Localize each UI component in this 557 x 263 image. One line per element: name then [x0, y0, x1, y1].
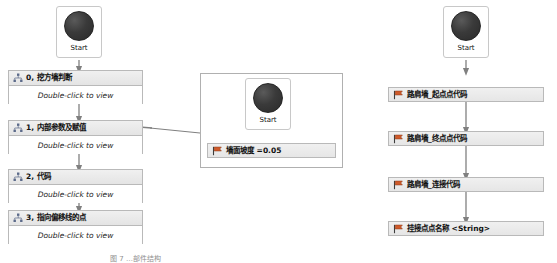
right-node-0-title: 路肩墙_起点点代码	[407, 90, 467, 100]
hierarchy-icon	[13, 213, 23, 223]
start-ball-icon	[64, 11, 94, 41]
start-ball-icon	[253, 83, 283, 113]
process-node-0-header: 0, 挖方墙判断	[9, 71, 142, 86]
process-node-1-title: 1, 内部参数及赋值	[26, 123, 86, 133]
start-node-right[interactable]: Start	[443, 6, 489, 58]
param-node-wall-slope[interactable]: 墙面坡度 =0.05	[207, 143, 336, 158]
process-node-2-body: Double-click to view	[9, 185, 142, 203]
start-ball-icon	[451, 11, 481, 41]
process-node-0-body: Double-click to view	[9, 86, 142, 104]
param-node-wall-slope-title: 墙面坡度 =0.05	[226, 146, 281, 156]
process-node-2[interactable]: 2, 代码 Double-click to view	[8, 169, 143, 203]
start-node-middle[interactable]: Start	[245, 78, 291, 130]
right-node-2-title: 路肩墙_连接代码	[407, 180, 460, 190]
process-node-0-title: 0, 挖方墙判断	[26, 73, 72, 83]
process-node-1[interactable]: 1, 内部参数及赋值 Double-click to view	[8, 120, 143, 154]
right-node-0[interactable]: 路肩墙_起点点代码	[388, 87, 544, 102]
process-node-3-hint: Double-click to view	[38, 231, 114, 240]
right-node-3-title: 挂接点点名称 <String>	[407, 224, 490, 234]
process-node-2-title: 2, 代码	[26, 172, 51, 182]
flag-icon	[393, 90, 404, 100]
process-node-2-header: 2, 代码	[9, 170, 142, 185]
flag-icon	[393, 180, 404, 190]
process-node-2-hint: Double-click to view	[38, 190, 114, 199]
start-node-left[interactable]: Start	[56, 6, 102, 58]
right-node-1[interactable]: 路肩墙_终点点代码	[388, 131, 544, 146]
edge-group-to-n1-seg	[150, 128, 200, 133]
start-node-label: Start	[457, 44, 474, 53]
figure-caption: 图 7 …部件结构	[110, 253, 161, 263]
flag-icon	[393, 224, 404, 234]
flag-icon	[393, 134, 404, 144]
process-node-0-hint: Double-click to view	[38, 91, 114, 100]
process-node-1-body: Double-click to view	[9, 136, 142, 154]
process-node-1-header: 1, 内部参数及赋值	[9, 121, 142, 136]
hierarchy-icon	[13, 172, 23, 182]
right-node-2[interactable]: 路肩墙_连接代码	[388, 177, 544, 192]
flag-icon	[212, 146, 223, 156]
process-node-3-title: 3, 指向偏移线的点	[26, 213, 86, 223]
start-node-label: Start	[70, 44, 87, 53]
start-node-label: Start	[259, 116, 276, 125]
hierarchy-icon	[13, 73, 23, 83]
process-node-1-hint: Double-click to view	[38, 141, 114, 150]
right-node-1-title: 路肩墙_终点点代码	[407, 134, 467, 144]
process-node-3-header: 3, 指向偏移线的点	[9, 211, 142, 226]
hierarchy-icon	[13, 123, 23, 133]
process-node-0[interactable]: 0, 挖方墙判断 Double-click to view	[8, 70, 143, 104]
process-node-3[interactable]: 3, 指向偏移线的点 Double-click to view	[8, 210, 143, 244]
right-node-3[interactable]: 挂接点点名称 <String>	[388, 221, 544, 236]
process-node-3-body: Double-click to view	[9, 226, 142, 244]
